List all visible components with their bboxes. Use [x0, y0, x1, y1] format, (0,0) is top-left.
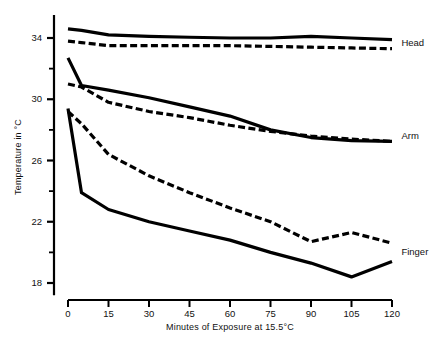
y-tick-label: 22: [16, 216, 42, 227]
plot-area: [0, 0, 438, 344]
x-tick-label: 120: [377, 308, 407, 319]
series-label-head: Head: [401, 37, 424, 48]
series-line-3: [68, 58, 392, 141]
series-line-6: [68, 108, 392, 276]
series-line-1: [68, 29, 392, 40]
x-tick-label: 90: [296, 308, 326, 319]
x-tick-label: 105: [337, 308, 367, 319]
x-tick-label: 60: [215, 308, 245, 319]
x-tick-label: 30: [134, 308, 164, 319]
x-tick-label: 75: [256, 308, 286, 319]
y-tick-label: 18: [16, 277, 42, 288]
temperature-exposure-chart: Temperature in °C Minutes of Exposure at…: [0, 0, 438, 344]
y-tick-label: 26: [16, 155, 42, 166]
y-tick-label: 34: [16, 32, 42, 43]
series-line-2: [68, 41, 392, 49]
y-tick-label: 30: [16, 93, 42, 104]
x-tick-label: 45: [175, 308, 205, 319]
series-line-5: [68, 112, 392, 244]
x-tick-label: 0: [53, 308, 83, 319]
series-label-arm: Arm: [401, 130, 418, 141]
x-tick-label: 15: [94, 308, 124, 319]
series-label-finger: Finger: [401, 246, 428, 257]
